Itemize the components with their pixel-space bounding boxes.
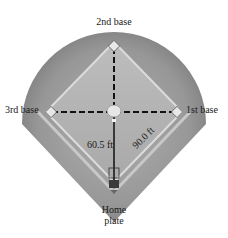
- home-plate-label: Home plate: [102, 204, 126, 226]
- third-base-label: 3rd base: [5, 104, 39, 115]
- home-plate-label-line1: Home: [102, 204, 126, 215]
- baseball-diamond-diagram: [0, 0, 228, 238]
- first-base-label: 1st base: [186, 104, 218, 115]
- pitch-distance-label: 60.5 ft: [87, 139, 113, 150]
- home-plate-label-line2: plate: [102, 215, 126, 226]
- second-base-label: 2nd base: [96, 16, 131, 27]
